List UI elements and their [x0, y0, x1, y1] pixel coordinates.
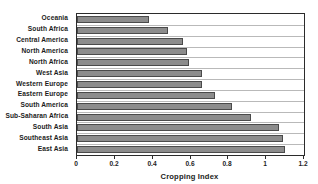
bar-eastern-europe [77, 92, 215, 99]
category-label-sub-saharan-africa: Sub-Saharan Africa [5, 112, 68, 120]
bar-sub-saharan-africa [77, 114, 251, 121]
x-tick-label: 1 [263, 159, 267, 168]
category-label-south-africa: South Africa [5, 25, 68, 33]
row-separator [77, 122, 304, 123]
row-separator [77, 57, 304, 58]
category-label-eastern-europe: Eastern Europe [5, 90, 68, 98]
category-label-north-america: North America [5, 47, 68, 55]
bar-south-africa [77, 27, 168, 34]
row-separator [77, 90, 304, 91]
category-label-west-asia: West Asia [5, 69, 68, 77]
row-separator [77, 144, 304, 145]
bar-north-america [77, 48, 187, 55]
category-label-western-europe: Western Europe [5, 80, 68, 88]
category-label-southeast-asia: Southeast Asia [5, 134, 68, 142]
category-label-south-asia: South Asia [5, 123, 68, 131]
bar-west-asia [77, 70, 202, 77]
plot-area [76, 13, 305, 156]
category-label-oceania: Oceania [5, 14, 68, 22]
bar-north-africa [77, 59, 189, 66]
x-tick-label: 1.2 [298, 159, 307, 168]
bar-south-asia [77, 124, 279, 131]
cropping-index-bar-chart: OceaniaSouth AfricaCentral AmericaNorth … [0, 0, 318, 184]
bar-western-europe [77, 81, 202, 88]
row-separator [77, 68, 304, 69]
category-axis-labels: OceaniaSouth AfricaCentral AmericaNorth … [0, 13, 72, 154]
x-tick-label: 0.2 [109, 159, 118, 168]
category-label-south-america: South America [5, 101, 68, 109]
category-label-east-asia: East Asia [5, 145, 68, 153]
plot-inner [77, 14, 304, 155]
bar-east-asia [77, 146, 285, 153]
category-label-north-africa: North Africa [5, 58, 68, 66]
category-label-central-america: Central America [5, 36, 68, 44]
x-tick-label: 0 [74, 159, 78, 168]
x-tick-label: 0.8 [223, 159, 232, 168]
bar-southeast-asia [77, 135, 283, 142]
row-separator [77, 133, 304, 134]
x-axis-title: Cropping Index [76, 172, 303, 181]
x-tick-label: 0.4 [147, 159, 156, 168]
bar-central-america [77, 38, 183, 45]
row-separator [77, 79, 304, 80]
bar-oceania [77, 16, 149, 23]
bar-south-america [77, 103, 232, 110]
x-axis: 00.20.40.60.811.2 [76, 155, 305, 167]
x-tick-label: 0.6 [185, 159, 194, 168]
